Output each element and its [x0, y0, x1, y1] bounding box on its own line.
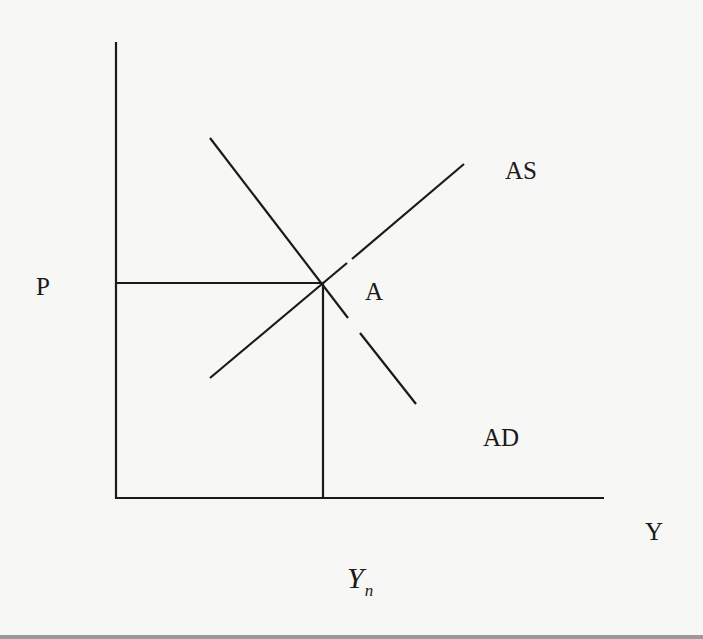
natural-output-label: Yn: [347, 563, 373, 599]
bottom-border-strip: [0, 635, 703, 639]
ad-curve-upper: [210, 138, 348, 318]
as-curve-upper: [352, 164, 464, 259]
aggregate-supply-label: AS: [505, 158, 537, 183]
aggregate-demand-label: AD: [483, 425, 519, 450]
price-axis-label: P: [36, 274, 50, 299]
ad-as-diagram: [0, 0, 703, 639]
natural-output-main: Y: [347, 561, 364, 594]
equilibrium-point-label: A: [365, 279, 383, 304]
output-axis-label: Y: [645, 519, 663, 544]
as-curve-lower: [210, 263, 347, 378]
ad-curve-lower: [360, 333, 416, 404]
natural-output-subscript: n: [365, 581, 374, 600]
